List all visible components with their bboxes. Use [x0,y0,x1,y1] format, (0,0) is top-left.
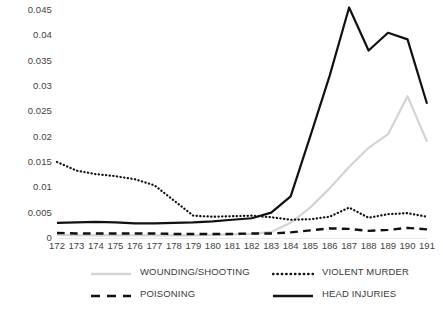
line-chart: 0.0450.040.0350.030.0250.020.0150.010.00… [0,0,443,313]
series-line-violent-murder [57,162,427,220]
legend-swatch-icon [272,288,314,300]
series-line-head-injuries [57,7,427,223]
plot-area [57,10,427,238]
chart-legend: WOUNDING/SHOOTINGVIOLENT MURDERPOISONING… [90,264,420,308]
legend-swatch-icon [90,288,132,300]
y-tick-label: 0.025 [0,106,52,116]
y-tick-label: 0.01 [0,182,52,192]
y-tick-label: 0.035 [0,56,52,66]
y-tick-label: 0.005 [0,208,52,218]
series-line-wounding-shooting [57,96,427,235]
x-axis: 1721731741751761771781791801811821831841… [57,240,427,254]
y-tick-label: 0.04 [0,30,52,40]
legend-swatch-icon [90,266,132,278]
x-tick-label: 191 [414,240,440,252]
legend-item[interactable]: WOUNDING/SHOOTING [90,264,250,280]
legend-swatch-icon [272,266,314,278]
y-tick-label: 0.015 [0,157,52,167]
legend-item[interactable]: POISONING [90,286,250,302]
y-tick-label: 0.02 [0,132,52,142]
plot-svg [57,10,427,238]
series-line-poisoning [57,228,427,234]
legend-label: WOUNDING/SHOOTING [140,266,250,278]
legend-label: HEAD INJURIES [322,288,396,300]
y-tick-label: 0.03 [0,81,52,91]
y-axis: 0.0450.040.0350.030.0250.020.0150.010.00… [0,0,52,248]
legend-item[interactable]: HEAD INJURIES [272,286,432,302]
legend-item[interactable]: VIOLENT MURDER [272,264,432,280]
legend-label: POISONING [140,288,195,300]
y-tick-label: 0.045 [0,5,52,15]
x-axis-baseline [57,238,427,239]
legend-label: VIOLENT MURDER [322,266,409,278]
